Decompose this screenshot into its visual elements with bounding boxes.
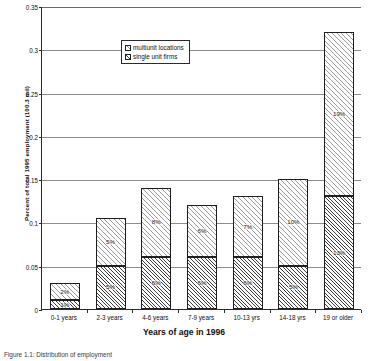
bar-segment-multiunit: 6% [187,205,217,257]
bar-value-label: 2% [60,289,70,295]
x-axis-title: Years of age in 1996 [0,327,368,337]
y-tick-label: 0 [34,307,38,314]
bar-stack: 1%2% [50,283,80,309]
y-tick-label: 0.25 [26,90,38,97]
bar-segment-multiunit: 7% [233,196,263,257]
bar-segment-multiunit: 10% [278,179,308,266]
y-tick-label: 0.1 [29,220,38,227]
bar-segment-multiunit: 2% [50,283,80,300]
y-axis-title: Percent of total 1995 employment (100.3 … [23,44,30,264]
bar-value-label: 5% [288,284,298,290]
x-tick-mark [132,310,133,313]
bar-stack: 6%8% [141,188,171,309]
bar-value-label: 19% [332,111,345,117]
x-tick-label: 10-13 yrs [234,314,260,321]
x-tick-label: 0-1 years [51,314,77,321]
y-tick-label: 0.05 [26,263,38,270]
bar-value-label: 6% [151,280,161,286]
bar-stack: 6%6% [187,205,217,309]
bar-segment-multiunit: 8% [141,188,171,257]
bar-value-label: 6% [197,228,207,234]
bar-value-label: 13% [332,250,345,256]
x-tick-label: 2-3 years [96,314,122,321]
bar-stack: 6%7% [233,196,263,309]
y-tick-label: 0.2 [29,133,38,140]
bar-value-label: 5% [106,284,116,290]
bar-value-label: 7% [243,224,253,230]
y-tick-label: 0.35 [26,4,38,11]
x-tick-mark [224,310,225,313]
legend-item-multiunit: multiunit locations [125,43,184,52]
x-tick-mark [178,310,179,313]
chart-container: Percent of total 1995 employment (100.3 … [0,0,368,361]
bar-value-label: 8% [151,219,161,225]
plot-area: 00.050.10.150.20.250.30.35 1%2%5%5%6%8%6… [41,7,361,310]
bar-segment-single-unit: 13% [324,196,354,309]
legend-item-single-unit: single unit firms [125,52,184,61]
y-tick-label: 0.15 [26,177,38,184]
x-tick-mark [315,310,316,313]
bar-stack: 5%10% [278,179,308,309]
x-tick-mark [361,310,362,313]
bar-stack: 5%5% [96,218,126,309]
legend-swatch-single-unit-icon [125,54,131,60]
x-tick-label: 4-6 years [142,314,168,321]
bar-value-label: 10% [287,219,300,225]
bar-stack: 13%19% [324,32,354,309]
bar-segment-single-unit: 6% [233,257,263,309]
x-tick-label: 7-9 years [188,314,214,321]
legend-label-single-unit: single unit firms [133,53,177,60]
bar-segment-multiunit: 5% [96,218,126,266]
bar-segment-single-unit: 5% [278,266,308,309]
x-tick-label: 14-18 yrs [279,314,305,321]
chart-legend: multiunit locations single unit firms [121,40,190,64]
legend-swatch-multiunit-icon [125,45,131,51]
bar-value-label: 6% [197,280,207,286]
figure-caption: Figure 1.1: Distribution of employment [4,351,364,359]
x-tick-mark [87,310,88,313]
bar-value-label: 5% [106,239,116,245]
x-tick-mark [270,310,271,313]
bar-segment-single-unit: 1% [50,300,80,309]
bar-value-label: 6% [243,280,253,286]
bar-segment-single-unit: 6% [187,257,217,309]
bar-segment-single-unit: 5% [96,266,126,309]
bar-segment-multiunit: 19% [324,32,354,196]
bar-series: 1%2%5%5%6%8%6%6%6%7%5%10%13%19% [42,7,361,309]
bar-value-label: 1% [60,302,70,308]
bar-segment-single-unit: 6% [141,257,171,309]
legend-label-multiunit: multiunit locations [133,44,184,51]
x-axis-ticks: 0-1 years2-3 years4-6 years7-9 years10-1… [41,310,361,322]
x-tick-label: 19 or older [323,314,353,321]
y-tick-label: 0.3 [29,47,38,54]
